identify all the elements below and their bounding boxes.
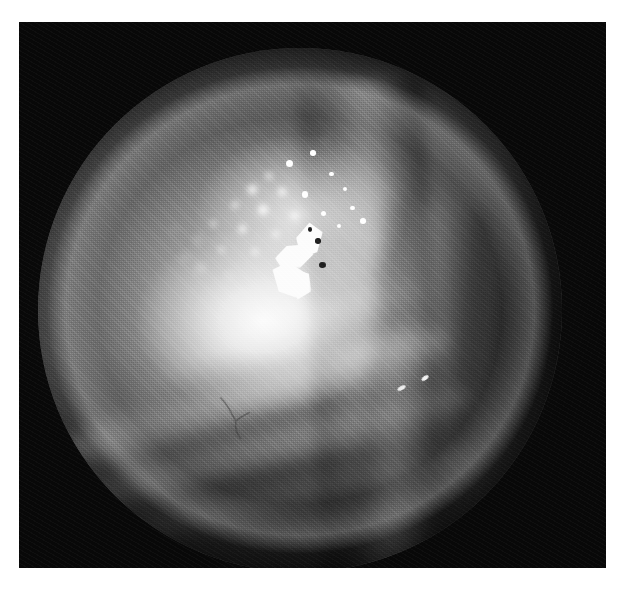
photograph-frame <box>19 22 606 568</box>
exudate-spot <box>195 236 202 243</box>
exudate-spot <box>286 160 293 167</box>
exudate-spot <box>258 205 268 215</box>
exudate-spot <box>266 173 272 179</box>
exudate-spot <box>227 273 232 278</box>
exudate-spot <box>248 185 257 194</box>
exudate-spot <box>182 255 187 260</box>
exudate-spot <box>172 227 176 231</box>
exudate-spot <box>239 225 247 233</box>
page-canvas <box>0 0 628 596</box>
vessel-filament <box>216 394 263 441</box>
exudate-spot <box>232 202 238 208</box>
exudate-spot <box>252 249 258 255</box>
exudate-spot <box>278 188 286 196</box>
exudate-spot <box>291 212 298 219</box>
endoscope-aperture <box>38 48 562 568</box>
exudate-spot <box>144 277 148 281</box>
crystalline-structure <box>271 221 334 300</box>
exudate-spot <box>211 221 216 226</box>
exudate-spot <box>197 265 204 272</box>
exudate-spot <box>219 247 225 253</box>
